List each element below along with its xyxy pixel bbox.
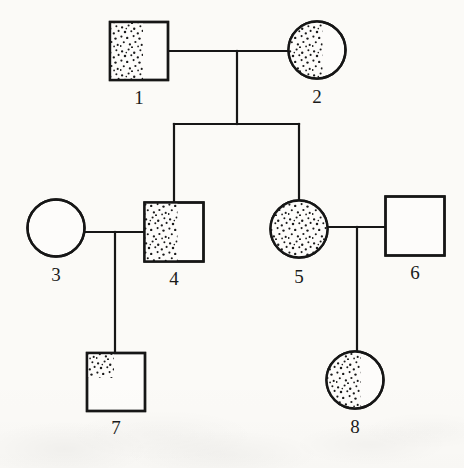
individual-label-8: 8	[350, 416, 360, 437]
stipple-fill-8	[327, 352, 361, 409]
individual-label-7: 7	[111, 417, 121, 438]
pedigree-diagram: 1 2 3 4	[0, 0, 464, 468]
individual-3[interactable]: 3	[28, 200, 85, 286]
symbol-square-6[interactable]	[386, 197, 445, 256]
connector-lines	[84, 51, 386, 353]
individual-label-1: 1	[134, 87, 144, 108]
individual-4[interactable]: 4	[145, 203, 204, 290]
individual-6[interactable]: 6	[386, 197, 445, 284]
individual-5[interactable]: 5	[270, 200, 328, 287]
individual-label-3: 3	[51, 264, 61, 285]
individual-7[interactable]: 7	[87, 353, 145, 438]
individual-8[interactable]: 8	[327, 352, 384, 438]
pedigree-page: 1 2 3 4	[0, 0, 464, 468]
individual-label-6: 6	[410, 262, 420, 283]
individual-label-4: 4	[169, 268, 179, 289]
stipple-fill-4	[145, 203, 178, 262]
individual-2[interactable]: 2	[289, 22, 346, 108]
individual-1[interactable]: 1	[110, 22, 168, 108]
individual-label-5: 5	[294, 266, 304, 287]
individual-label-2: 2	[312, 86, 322, 107]
stipple-fill-2	[289, 22, 323, 79]
stipple-fill-7	[87, 353, 114, 378]
stipple-fill-1	[110, 22, 143, 80]
